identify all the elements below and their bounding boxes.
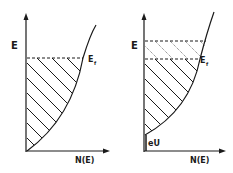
right-fermi-subscript: f bbox=[206, 61, 209, 67]
left-x-label: N(E) bbox=[75, 156, 94, 165]
left-y-arrow-icon bbox=[24, 13, 29, 20]
left-y-label: E bbox=[11, 40, 18, 51]
right-fermi-label: E bbox=[200, 56, 205, 65]
right-eu-label: eU bbox=[148, 139, 160, 148]
left-x-arrow-icon bbox=[103, 149, 110, 154]
left-fermi-subscript: f bbox=[94, 60, 97, 66]
right-y-label: E bbox=[131, 40, 138, 51]
right-x-arrow-icon bbox=[219, 149, 226, 154]
right-panel: E N(E) E f eU bbox=[70, 12, 233, 165]
right-dos-curve bbox=[145, 12, 214, 135]
fermi-diagram: E N(E) E f bbox=[0, 0, 233, 173]
right-x-label: N(E) bbox=[190, 156, 209, 165]
left-fermi-label: E bbox=[88, 55, 93, 64]
right-y-arrow-icon bbox=[142, 13, 147, 20]
